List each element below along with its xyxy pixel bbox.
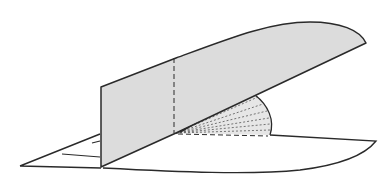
folded-paper-diagram: [0, 0, 390, 192]
wall-and-wing: [101, 22, 366, 167]
left-flap-mark: [62, 141, 100, 157]
base-flap: [20, 134, 376, 173]
